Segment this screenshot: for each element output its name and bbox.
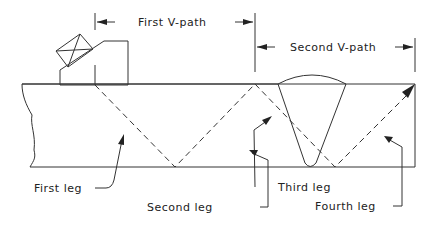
leader-lines — [95, 120, 402, 207]
second-leg-label: Second leg — [147, 201, 213, 214]
first-v-path-label: First V-path — [138, 16, 207, 29]
plate-outline — [22, 84, 415, 167]
diagram-canvas: First V-path Second V-path First leg Sec… — [0, 0, 437, 226]
beam-path — [95, 84, 408, 167]
second-v-path-label: Second V-path — [290, 41, 376, 54]
third-leg-label: Third leg — [277, 181, 331, 194]
transducer-wedge — [60, 41, 128, 85]
weld-bead — [278, 75, 346, 167]
fourth-leg-label: Fourth leg — [315, 200, 376, 213]
transducer-crystal — [56, 34, 93, 67]
first-leg-label: First leg — [34, 182, 82, 195]
